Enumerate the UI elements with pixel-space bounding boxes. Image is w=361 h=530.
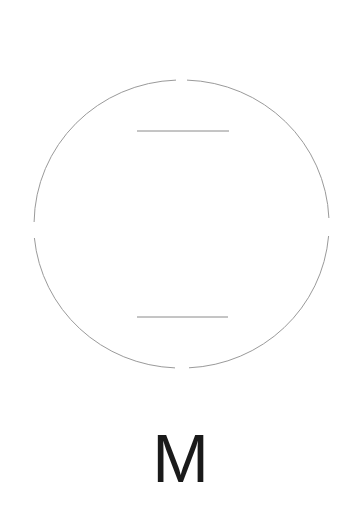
arc-bottom-right — [189, 236, 329, 368]
circle-outline — [34, 80, 329, 368]
arc-top-right — [187, 80, 329, 218]
arc-top-left — [34, 80, 176, 222]
symbol-label: M — [0, 418, 361, 498]
arc-bottom-left — [34, 238, 175, 368]
symbol-diagram — [0, 0, 361, 400]
